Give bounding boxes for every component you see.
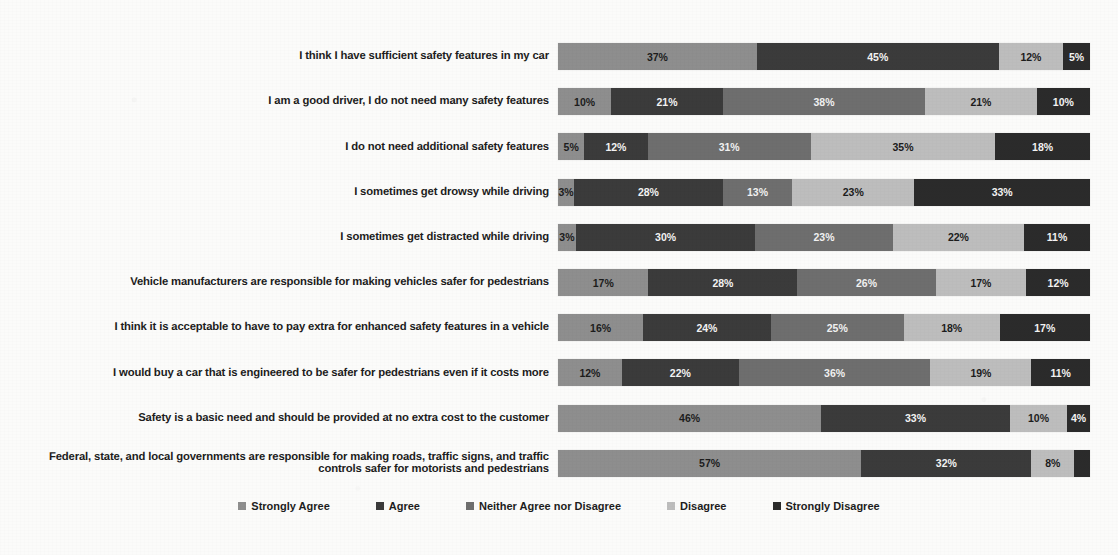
bar-segment: 22% (622, 359, 739, 386)
bar-segment: 3% (558, 179, 574, 206)
bar-segment: 31% (648, 133, 811, 160)
legend-item[interactable]: Strongly Agree (238, 500, 329, 512)
bar-segment: 11% (1031, 359, 1090, 386)
bar-segment: 10% (1010, 405, 1067, 432)
stacked-bar: 5%12%31%35%18% (558, 133, 1090, 160)
bar-segment: 37% (558, 43, 757, 70)
segment-value-label: 35% (892, 141, 913, 153)
segment-value-label: 45% (867, 51, 888, 63)
segment-value-label: 31% (719, 141, 740, 153)
chart-row: I am a good driver, I do not need many s… (28, 79, 1090, 124)
segment-value-label: 19% (970, 367, 991, 379)
category-label: I sometimes get distracted while driving (28, 231, 558, 244)
bar-segment: 19% (930, 359, 1031, 386)
legend-swatch-icon (376, 502, 384, 510)
category-label: I sometimes get drowsy while driving (28, 186, 558, 199)
segment-value-label: 17% (593, 277, 614, 289)
segment-value-label: 17% (1034, 322, 1055, 334)
bar-segment: 3% (558, 224, 576, 251)
chart-row: I do not need additional safety features… (28, 124, 1090, 169)
bar-segment: 26% (797, 269, 935, 296)
segment-value-label: 8% (1045, 457, 1060, 469)
chart-row: I think I have sufficient safety feature… (28, 34, 1090, 79)
chart-row: I sometimes get distracted while driving… (28, 215, 1090, 260)
bar-segment: 18% (995, 133, 1090, 160)
category-label: I would buy a car that is engineered to … (28, 367, 558, 380)
stacked-bar: 3%28%13%23%33% (558, 179, 1090, 206)
bar-segment: 13% (723, 179, 792, 206)
stacked-bar: 12%22%36%19%11% (558, 359, 1090, 386)
segment-value-label: 3% (558, 186, 573, 198)
segment-value-label: 33% (992, 186, 1013, 198)
bar-segment: 4% (1067, 405, 1090, 432)
bar-segment: 33% (821, 405, 1010, 432)
bar-segment: 22% (893, 224, 1025, 251)
bar-segment: 21% (611, 88, 723, 115)
chart-row: I would buy a car that is engineered to … (28, 350, 1090, 395)
bar-segment: 10% (1037, 88, 1090, 115)
segment-value-label: 57% (699, 457, 720, 469)
bar-segment: 12% (1026, 269, 1090, 296)
bar-segment: 30% (576, 224, 755, 251)
bar-segment: 17% (558, 269, 648, 296)
stacked-bar: 46%33%10%4% (558, 405, 1090, 432)
segment-value-label: 5% (564, 141, 579, 153)
bar-segment: 35% (811, 133, 995, 160)
legend-swatch-icon (667, 502, 675, 510)
chart-row: Safety is a basic need and should be pro… (28, 396, 1090, 441)
bar-segment: 23% (792, 179, 914, 206)
segment-value-label: 5% (1069, 51, 1084, 63)
segment-value-label: 12% (1020, 51, 1041, 63)
segment-value-label: 28% (712, 277, 733, 289)
bar-segment: 8% (1031, 450, 1074, 477)
legend-swatch-icon (466, 502, 474, 510)
segment-value-label: 24% (696, 322, 717, 334)
legend-label: Neither Agree nor Disagree (479, 500, 621, 512)
segment-value-label: 37% (647, 51, 668, 63)
stacked-bar: 37%45%12%5% (558, 43, 1090, 70)
bar-segment: 12% (558, 359, 622, 386)
legend-label: Agree (389, 500, 420, 512)
segment-value-label: 18% (941, 322, 962, 334)
segment-value-label: 23% (843, 186, 864, 198)
bar-segment: 5% (558, 133, 584, 160)
segment-value-label: 22% (670, 367, 691, 379)
bar-segment: 18% (904, 314, 1000, 341)
segment-value-label: 36% (824, 367, 845, 379)
legend-label: Strongly Disagree (786, 500, 880, 512)
bar-segment: 38% (723, 88, 925, 115)
bar-segment: 32% (861, 450, 1031, 477)
bar-segment (1074, 450, 1090, 477)
legend-item[interactable]: Neither Agree nor Disagree (466, 500, 621, 512)
chart-row: Federal, state, and local governments ar… (28, 441, 1090, 486)
stacked-bar: 17%28%26%17%12% (558, 269, 1090, 296)
segment-value-label: 38% (813, 96, 834, 108)
segment-value-label: 3% (559, 231, 574, 243)
bar-segment: 28% (648, 269, 797, 296)
legend-item[interactable]: Disagree (667, 500, 726, 512)
bar-segment: 36% (739, 359, 931, 386)
legend-item[interactable]: Agree (376, 500, 420, 512)
segment-value-label: 25% (827, 322, 848, 334)
bar-segment: 10% (558, 88, 611, 115)
bar-segment: 17% (936, 269, 1026, 296)
bar-segment: 17% (1000, 314, 1090, 341)
stacked-bar: 3%30%23%22%11% (558, 224, 1090, 251)
category-label: Federal, state, and local governments ar… (28, 451, 558, 476)
segment-value-label: 10% (1053, 96, 1074, 108)
segment-value-label: 11% (1047, 231, 1067, 243)
segment-value-label: 21% (657, 96, 678, 108)
category-label: Vehicle manufacturers are responsible fo… (28, 276, 558, 289)
legend-item[interactable]: Strongly Disagree (773, 500, 880, 512)
chart-legend: Strongly AgreeAgreeNeither Agree nor Dis… (0, 500, 1118, 512)
bar-segment: 23% (755, 224, 892, 251)
segment-value-label: 10% (574, 96, 595, 108)
segment-value-label: 12% (579, 367, 600, 379)
bar-segment: 11% (1024, 224, 1090, 251)
category-label: I think it is acceptable to have to pay … (28, 321, 558, 334)
category-label: I think I have sufficient safety feature… (28, 50, 558, 63)
segment-value-label: 46% (679, 412, 700, 424)
stacked-bar-chart: I think I have sufficient safety feature… (0, 0, 1118, 555)
bar-segment: 46% (558, 405, 821, 432)
segment-value-label: 21% (970, 96, 991, 108)
